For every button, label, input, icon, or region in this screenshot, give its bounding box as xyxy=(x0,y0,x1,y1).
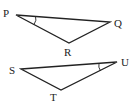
triangle-stu-edges xyxy=(21,62,117,90)
triangle-pqr-edges xyxy=(16,15,110,43)
vertex-label-s: S xyxy=(9,64,15,76)
angle-u-arc xyxy=(99,64,101,72)
vertex-label-q: Q xyxy=(114,17,122,29)
vertex-label-u: U xyxy=(121,56,129,68)
triangle-pqr: P Q R xyxy=(3,7,122,58)
triangles-diagram: P Q R S T U xyxy=(0,0,137,102)
vertex-label-p: P xyxy=(3,7,9,19)
vertex-label-r: R xyxy=(64,46,72,58)
angle-p-arc xyxy=(34,17,36,25)
triangle-stu: S T U xyxy=(9,56,129,102)
vertex-label-t: T xyxy=(50,91,57,102)
